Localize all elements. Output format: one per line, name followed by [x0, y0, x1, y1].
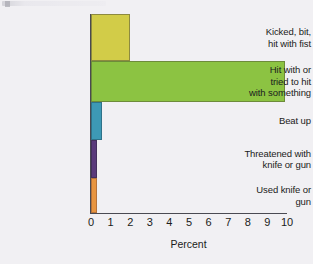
- category-label-2: Beat up: [229, 115, 311, 127]
- x-tick-label-9: 9: [258, 216, 276, 228]
- x-tick-label-4: 4: [160, 216, 178, 228]
- category-label-line: Hit with or: [229, 64, 311, 76]
- bar-2: [91, 102, 102, 140]
- x-tick-label-8: 8: [239, 216, 257, 228]
- bar-0: [91, 14, 130, 61]
- category-label-line: with something: [229, 87, 311, 99]
- bar-chart-plot-area: Kicked, bit,hit with fistHit with ortrie…: [0, 0, 313, 264]
- x-axis-line: [90, 213, 287, 214]
- bar-3: [91, 140, 97, 178]
- category-label-line: hit with fist: [229, 38, 311, 50]
- category-label-line: Beat up: [229, 115, 311, 127]
- category-label-line: tried to hit: [229, 76, 311, 88]
- category-label-line: Kicked, bit,: [229, 26, 311, 38]
- category-label-1: Hit with ortried to hitwith something: [229, 64, 311, 99]
- x-tick-label-7: 7: [219, 216, 237, 228]
- category-label-4: Used knife orgun: [229, 184, 311, 207]
- x-tick-label-10: 10: [278, 216, 296, 228]
- category-label-line: Used knife or: [229, 184, 311, 196]
- category-label-line: gun: [229, 196, 311, 208]
- category-label-0: Kicked, bit,hit with fist: [229, 26, 311, 49]
- x-tick-label-6: 6: [200, 216, 218, 228]
- bar-4: [91, 178, 97, 213]
- x-tick-label-2: 2: [121, 216, 139, 228]
- chart-figure: Kicked, bit,hit with fistHit with ortrie…: [0, 0, 313, 264]
- x-tick-label-5: 5: [180, 216, 198, 228]
- x-tick-label-3: 3: [141, 216, 159, 228]
- x-axis-title: Percent: [90, 238, 287, 250]
- category-label-line: knife or gun: [229, 159, 311, 171]
- x-tick-label-0: 0: [82, 216, 100, 228]
- x-tick-label-1: 1: [102, 216, 120, 228]
- category-label-line: Threatened with: [229, 148, 311, 160]
- category-label-3: Threatened with knife or gun: [229, 148, 311, 171]
